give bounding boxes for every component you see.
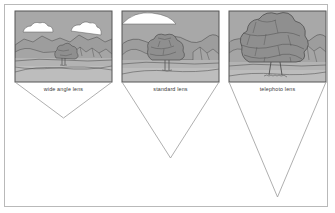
foreground-telephoto — [229, 70, 326, 82]
panel-standard-scene — [122, 11, 219, 82]
diagram-canvas: wide angle lens — [0, 0, 335, 213]
panel-wide-angle-scene — [15, 11, 112, 82]
lens-label-telephoto: telephoto lens — [260, 86, 296, 92]
panel-telephoto-scene — [229, 11, 326, 82]
lens-label-standard: standard lens — [153, 86, 187, 92]
lens-label-wide-angle: wide angle lens — [43, 86, 84, 92]
foreground-standard — [122, 68, 219, 82]
lens-comparison-diagram: wide angle lens — [0, 0, 335, 213]
